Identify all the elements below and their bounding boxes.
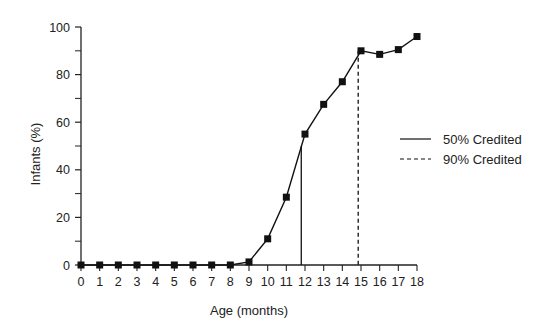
- data-point: [264, 235, 271, 242]
- data-point: [152, 262, 159, 269]
- series-group: [78, 33, 421, 268]
- y-tick-label: 20: [56, 211, 70, 225]
- data-point: [171, 262, 178, 269]
- data-point: [395, 46, 402, 53]
- x-tick-label: 6: [190, 275, 197, 289]
- data-point: [339, 78, 346, 85]
- x-tick-label: 11: [280, 275, 293, 289]
- data-point: [227, 262, 234, 269]
- y-axis-title: Infants (%): [28, 123, 43, 186]
- x-tick-label: 15: [354, 275, 368, 289]
- legend: 50% Credited90% Credited: [400, 132, 522, 167]
- legend-label: 50% Credited: [443, 132, 522, 147]
- legend-label: 90% Credited: [443, 152, 522, 167]
- data-point: [134, 262, 141, 269]
- data-point: [115, 262, 122, 269]
- x-tick-label: 18: [410, 275, 424, 289]
- line-chart: 0204060801000123456789101112131415161718…: [0, 0, 548, 329]
- data-point: [190, 262, 197, 269]
- data-point: [246, 258, 253, 265]
- x-tick-label: 13: [317, 275, 331, 289]
- x-tick-label: 2: [115, 275, 122, 289]
- x-axis-title: Age (months): [210, 303, 288, 318]
- data-point: [96, 262, 103, 269]
- y-tick-label: 0: [63, 259, 70, 273]
- data-point: [358, 47, 365, 54]
- data-point: [302, 131, 309, 138]
- x-tick-label: 4: [152, 275, 159, 289]
- x-tick-label: 1: [96, 275, 103, 289]
- reference-lines: [301, 51, 358, 265]
- x-tick-label: 7: [208, 275, 215, 289]
- x-tick-label: 14: [335, 275, 349, 289]
- x-tick-label: 8: [227, 275, 234, 289]
- data-point: [320, 101, 327, 108]
- data-point: [283, 194, 290, 201]
- x-tick-label: 5: [171, 275, 178, 289]
- x-tick-label: 16: [373, 275, 387, 289]
- x-tick-label: 10: [261, 275, 275, 289]
- series-line: [81, 37, 417, 265]
- x-tick-label: 12: [298, 275, 312, 289]
- data-point: [376, 51, 383, 58]
- y-tick-label: 80: [56, 68, 70, 82]
- x-tick-label: 3: [134, 275, 141, 289]
- y-tick-label: 100: [49, 21, 70, 35]
- axes: 0204060801000123456789101112131415161718: [49, 21, 424, 290]
- data-point: [414, 33, 421, 40]
- data-point: [208, 262, 215, 269]
- y-tick-label: 60: [56, 116, 70, 130]
- x-tick-label: 17: [391, 275, 405, 289]
- data-point: [78, 262, 85, 269]
- x-tick-label: 9: [246, 275, 253, 289]
- x-tick-label: 0: [78, 275, 85, 289]
- y-tick-label: 40: [56, 163, 70, 177]
